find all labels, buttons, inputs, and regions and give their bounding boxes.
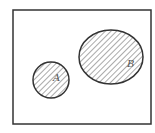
set-a-label: A (52, 72, 60, 83)
set-b-ellipse (79, 30, 143, 84)
venn-diagram: A B (0, 0, 155, 133)
set-b-label: B (126, 58, 134, 69)
set-a-circle (33, 62, 69, 98)
